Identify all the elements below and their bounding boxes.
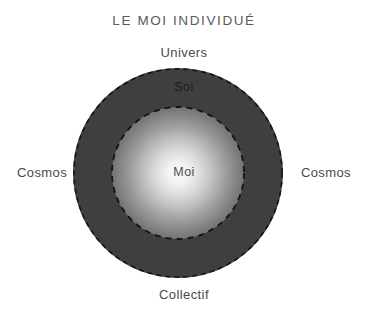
label-collectif: Collectif <box>0 287 368 302</box>
label-soi: Soi <box>0 80 368 94</box>
diagram-canvas: LE MOI INDIVIDUÉ Univers Cosmos Cosmos C… <box>0 0 368 319</box>
label-univers: Univers <box>0 45 368 60</box>
page-title: LE MOI INDIVIDUÉ <box>0 13 368 28</box>
label-moi: Moi <box>0 165 368 179</box>
